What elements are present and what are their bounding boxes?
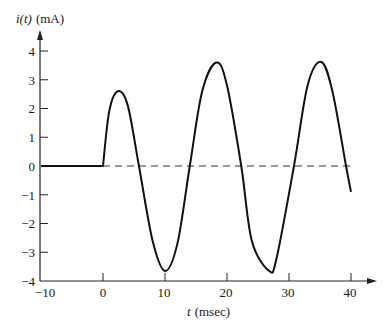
x-axis-title-unit: (msec) — [195, 304, 230, 319]
current-waveform — [41, 62, 351, 273]
x-axis-arrow-icon — [367, 278, 377, 284]
y-tick-neg4: −4 — [21, 274, 35, 289]
x-tick-10: 10 — [158, 285, 171, 300]
x-tick-0: 0 — [100, 285, 107, 300]
y-tick-1: 1 — [29, 130, 36, 145]
x-tick-40: 40 — [344, 285, 357, 300]
y-tick-labels: 4 3 2 1 0 −1 −2 −3 −4 — [21, 44, 35, 289]
y-axis-title: i(t)(mA) — [16, 11, 64, 26]
y-ticks — [40, 51, 48, 252]
x-axis-title-var: t — [187, 304, 191, 319]
chart-canvas: 4 3 2 1 0 −1 −2 −3 −4 −10 0 10 20 30 40 … — [0, 0, 385, 328]
y-tick-0: 0 — [29, 159, 36, 174]
x-tick-labels: −10 0 10 20 30 40 — [35, 285, 357, 300]
x-tick-neg10: −10 — [35, 285, 55, 300]
y-tick-neg1: −1 — [21, 188, 35, 203]
y-axis-title-unit: (mA) — [36, 11, 64, 26]
x-ticks — [103, 273, 351, 281]
y-tick-neg3: −3 — [21, 245, 35, 260]
y-axis-arrow-icon — [37, 30, 43, 40]
x-axis-title: t(msec) — [187, 304, 230, 319]
x-tick-30: 30 — [282, 285, 295, 300]
y-tick-neg2: −2 — [21, 216, 35, 231]
y-tick-3: 3 — [29, 73, 36, 88]
y-axis-title-var: i(t) — [16, 11, 32, 26]
y-tick-4: 4 — [29, 44, 36, 59]
x-tick-20: 20 — [220, 285, 233, 300]
y-tick-2: 2 — [29, 101, 36, 116]
